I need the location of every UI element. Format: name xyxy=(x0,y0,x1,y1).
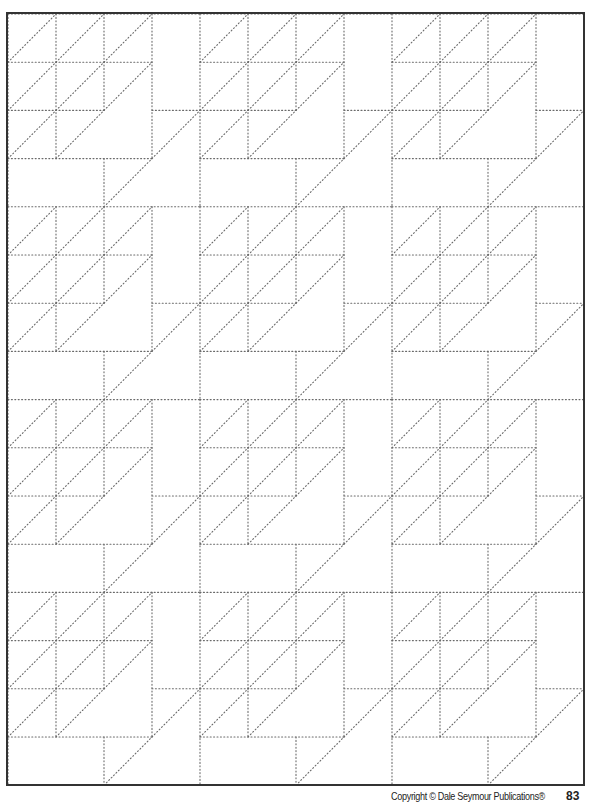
diagonal-dotted-line xyxy=(248,689,296,737)
diagonal-dotted-line xyxy=(200,592,248,640)
diagonal-dotted-line xyxy=(248,448,296,496)
diagonal-dotted-line xyxy=(152,496,200,544)
diagonal-dotted-line xyxy=(200,14,248,62)
diagonal-dotted-line xyxy=(488,592,536,640)
diagonal-dotted-line xyxy=(392,689,440,737)
diagonal-dotted-line xyxy=(56,448,104,496)
diagonal-dotted-line xyxy=(440,641,488,689)
diagonal-dotted-line xyxy=(488,207,536,255)
diagonal-dotted-line xyxy=(8,496,56,544)
diagonal-dotted-line xyxy=(8,62,56,110)
diagonal-dotted-line xyxy=(8,207,56,255)
diagonal-dotted-line xyxy=(200,110,248,158)
diagonal-dotted-line xyxy=(296,159,344,207)
diagonal-dotted-line xyxy=(488,544,536,592)
diagonal-dotted-line xyxy=(8,689,56,737)
diagonal-dotted-line xyxy=(248,496,296,544)
diagonal-dotted-line xyxy=(440,62,488,110)
diagonal-dotted-line xyxy=(248,110,296,158)
diagonal-dotted-line xyxy=(104,351,152,399)
diagonal-dotted-line xyxy=(56,496,104,544)
diagonal-dotted-line xyxy=(248,255,296,303)
diagonal-dotted-line xyxy=(56,62,104,110)
diagonal-dotted-line xyxy=(152,303,200,351)
diagonal-dotted-line xyxy=(488,255,536,303)
diagonal-dotted-line xyxy=(200,62,248,110)
diagonal-dotted-line xyxy=(440,496,488,544)
diagonal-dotted-line xyxy=(488,737,536,785)
page-footer: Copyright © Dale Seymour Publications® 8… xyxy=(0,789,591,807)
diagonal-dotted-line xyxy=(440,207,488,255)
diagonal-dotted-line xyxy=(8,255,56,303)
copyright-notice: Copyright © Dale Seymour Publications® xyxy=(391,790,545,802)
diagonal-dotted-line xyxy=(440,400,488,448)
diagonal-dotted-line xyxy=(296,641,344,689)
diagonal-dotted-line xyxy=(440,110,488,158)
diagonal-dotted-line xyxy=(56,303,104,351)
diagonal-dotted-line xyxy=(8,303,56,351)
diagonal-dotted-line xyxy=(440,592,488,640)
diagonal-dotted-line xyxy=(392,592,440,640)
diagonal-dotted-line xyxy=(248,592,296,640)
diagonal-dotted-line xyxy=(440,14,488,62)
diagonal-dotted-line xyxy=(248,14,296,62)
diagonal-dotted-line xyxy=(8,448,56,496)
diagonal-dotted-line xyxy=(56,592,104,640)
diagonal-dotted-line xyxy=(536,110,584,158)
diagonal-dotted-line xyxy=(392,303,440,351)
diagonal-dotted-line xyxy=(104,544,152,592)
diagonal-dotted-line xyxy=(56,110,104,158)
quilt-pattern-worksheet xyxy=(0,0,591,807)
diagonal-dotted-line xyxy=(488,641,536,689)
diagonal-dotted-line xyxy=(392,496,440,544)
diagonal-dotted-line xyxy=(440,448,488,496)
diagonal-dotted-line xyxy=(296,737,344,785)
diagonal-dotted-line xyxy=(488,351,536,399)
diagonal-dotted-line xyxy=(296,255,344,303)
diagonal-dotted-line xyxy=(56,641,104,689)
diagonal-dotted-line xyxy=(392,62,440,110)
diagonal-dotted-line xyxy=(248,207,296,255)
diagonal-dotted-line xyxy=(392,14,440,62)
diagonal-dotted-line xyxy=(392,207,440,255)
diagonal-dotted-line xyxy=(104,737,152,785)
diagonal-dotted-line xyxy=(200,255,248,303)
diagonal-dotted-line xyxy=(104,62,152,110)
diagonal-dotted-line xyxy=(248,400,296,448)
diagonal-dotted-line xyxy=(392,110,440,158)
diagonal-dotted-line xyxy=(248,641,296,689)
diagonal-dotted-line xyxy=(488,14,536,62)
diagonal-dotted-line xyxy=(104,448,152,496)
diagonal-dotted-line xyxy=(536,496,584,544)
diagonal-dotted-line xyxy=(296,400,344,448)
diagonal-dotted-line xyxy=(8,641,56,689)
diagonal-dotted-line xyxy=(200,207,248,255)
diagonal-dotted-line xyxy=(152,689,200,737)
page-number: 83 xyxy=(566,789,579,803)
diagonal-dotted-line xyxy=(104,641,152,689)
diagonal-dotted-line xyxy=(392,448,440,496)
diagonal-dotted-line xyxy=(488,159,536,207)
diagonal-dotted-line xyxy=(56,207,104,255)
diagonal-dotted-line xyxy=(344,689,392,737)
diagonal-dotted-line xyxy=(104,14,152,62)
diagonal-dotted-line xyxy=(296,14,344,62)
diagonal-dotted-line xyxy=(8,110,56,158)
diagonal-dotted-line xyxy=(392,641,440,689)
diagonal-dotted-line xyxy=(296,351,344,399)
diagonal-dotted-line xyxy=(200,641,248,689)
diagonal-dotted-line xyxy=(104,207,152,255)
diagonal-dotted-line xyxy=(392,255,440,303)
diagonal-dotted-line xyxy=(104,592,152,640)
diagonal-dotted-line xyxy=(104,400,152,448)
diagonal-dotted-line xyxy=(440,255,488,303)
diagonal-dotted-line xyxy=(200,689,248,737)
diagonal-dotted-line xyxy=(8,14,56,62)
diagonal-dotted-line xyxy=(200,303,248,351)
diagonal-dotted-line xyxy=(104,255,152,303)
diagonal-dotted-line xyxy=(56,400,104,448)
dotted-quilt-pattern xyxy=(8,14,584,785)
diagonal-dotted-line xyxy=(392,400,440,448)
diagonal-dotted-line xyxy=(296,592,344,640)
diagonal-dotted-line xyxy=(56,689,104,737)
